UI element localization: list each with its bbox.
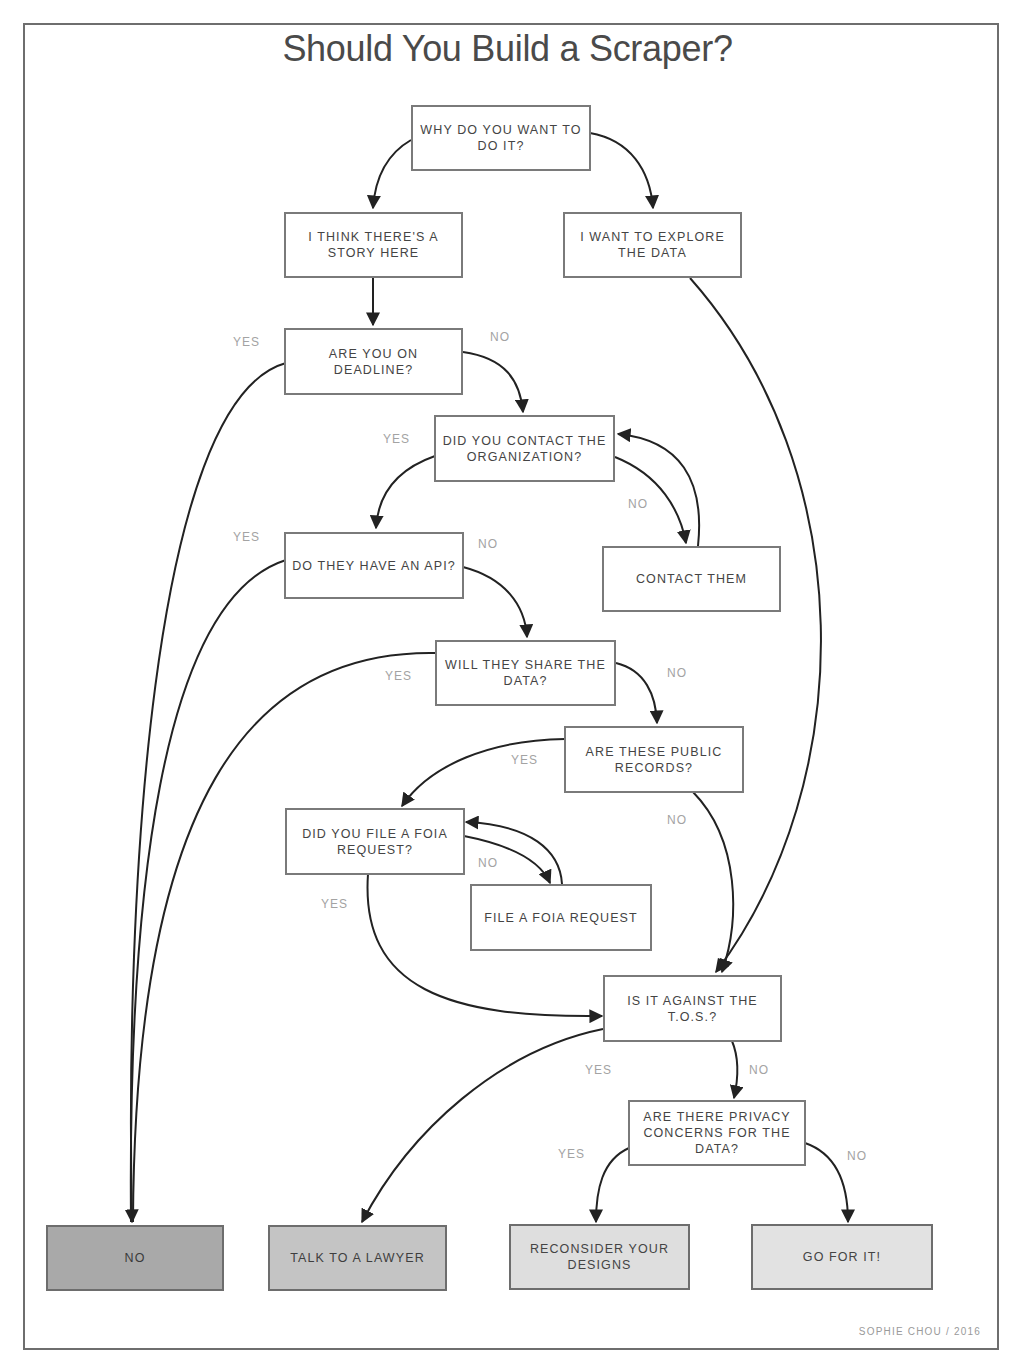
node-api: DO THEY HAVE AN API? xyxy=(284,532,464,599)
label-privacy-yes: YES xyxy=(558,1147,585,1161)
node-foia-question-text: DID YOU FILE A FOIA REQUEST? xyxy=(293,826,457,858)
edge-contact-return xyxy=(618,434,699,546)
label-deadline-yes: YES xyxy=(233,335,260,349)
node-tos-text: IS IT AGAINST THE T.O.S.? xyxy=(611,993,774,1025)
edge-privacy-no xyxy=(805,1143,848,1222)
label-foia-no: NO xyxy=(478,856,498,870)
edge-why-explore xyxy=(590,133,653,208)
edge-share-no xyxy=(616,663,657,723)
label-deadline-no: NO xyxy=(490,330,510,344)
label-privacy-no: NO xyxy=(847,1149,867,1163)
node-public: ARE THESE PUBLIC RECORDS? xyxy=(564,726,744,793)
edge-contact-no xyxy=(615,457,686,543)
node-explore: I WANT TO EXPLORE THE DATA xyxy=(563,212,742,278)
label-share-yes: YES xyxy=(385,669,412,683)
label-foia-yes: YES xyxy=(321,897,348,911)
outcome-no: NO xyxy=(46,1225,224,1291)
edge-why-story xyxy=(373,140,411,208)
edge-foia-return xyxy=(466,822,562,884)
node-contact-org-text: DID YOU CONTACT THE ORGANIZATION? xyxy=(442,433,607,465)
edge-share-yes xyxy=(133,653,435,1222)
node-foia-question: DID YOU FILE A FOIA REQUEST? xyxy=(285,808,465,875)
label-api-no: NO xyxy=(478,537,498,551)
node-why-text: WHY DO YOU WANT TO DO IT? xyxy=(419,122,583,154)
label-public-no: NO xyxy=(667,813,687,827)
label-api-yes: YES xyxy=(233,530,260,544)
label-share-no: NO xyxy=(667,666,687,680)
outcome-reconsider-designs: RECONSIDER YOUR DESIGNS xyxy=(509,1224,690,1290)
node-contact-them-text: CONTACT THEM xyxy=(636,571,747,587)
node-foia-file-text: FILE A FOIA REQUEST xyxy=(484,910,638,926)
outcome-go-for-it: GO FOR IT! xyxy=(751,1224,933,1290)
edge-tos-no xyxy=(732,1041,738,1098)
label-contact-yes: YES xyxy=(383,432,410,446)
edge-public-yes xyxy=(402,739,565,806)
edge-contact-yes xyxy=(376,456,435,528)
edge-explore-tos xyxy=(690,278,821,972)
node-tos: IS IT AGAINST THE T.O.S.? xyxy=(603,975,782,1042)
node-deadline-text: ARE YOU ON DEADLINE? xyxy=(292,346,455,378)
node-privacy-text: ARE THERE PRIVACY CONCERNS FOR THE DATA? xyxy=(636,1109,798,1157)
edge-deadline-no xyxy=(463,352,523,412)
edge-privacy-yes xyxy=(596,1148,629,1222)
node-api-text: DO THEY HAVE AN API? xyxy=(292,558,456,574)
node-share: WILL THEY SHARE THE DATA? xyxy=(435,640,616,706)
node-contact-them: CONTACT THEM xyxy=(602,546,781,612)
outcome-talk-to-lawyer: TALK TO A LAWYER xyxy=(268,1225,447,1291)
node-share-text: WILL THEY SHARE THE DATA? xyxy=(443,657,608,689)
node-privacy: ARE THERE PRIVACY CONCERNS FOR THE DATA? xyxy=(628,1100,806,1166)
outcome-reconsider-text: RECONSIDER YOUR DESIGNS xyxy=(517,1241,682,1273)
label-public-yes: YES xyxy=(511,753,538,767)
node-public-text: ARE THESE PUBLIC RECORDS? xyxy=(572,744,736,776)
node-why: WHY DO YOU WANT TO DO IT? xyxy=(411,105,591,171)
label-tos-yes: YES xyxy=(585,1063,612,1077)
node-explore-text: I WANT TO EXPLORE THE DATA xyxy=(571,229,734,261)
node-deadline: ARE YOU ON DEADLINE? xyxy=(284,328,463,395)
edge-foia-no xyxy=(464,836,550,883)
author-credit: SOPHIE CHOU / 2016 xyxy=(859,1326,981,1337)
edge-public-no xyxy=(693,792,733,972)
node-contact-org: DID YOU CONTACT THE ORGANIZATION? xyxy=(434,415,615,482)
outcome-lawyer-text: TALK TO A LAWYER xyxy=(290,1250,425,1266)
label-contact-no: NO xyxy=(628,497,648,511)
edge-api-no xyxy=(463,567,527,637)
edge-tos-yes xyxy=(362,1029,603,1222)
edge-api-yes xyxy=(131,560,286,1222)
node-foia-file: FILE A FOIA REQUEST xyxy=(470,884,652,951)
outcome-go-text: GO FOR IT! xyxy=(803,1249,881,1265)
outcome-no-text: NO xyxy=(125,1250,146,1266)
node-story-text: I THINK THERE'S A STORY HERE xyxy=(292,229,455,261)
node-story: I THINK THERE'S A STORY HERE xyxy=(284,212,463,278)
label-tos-no: NO xyxy=(749,1063,769,1077)
